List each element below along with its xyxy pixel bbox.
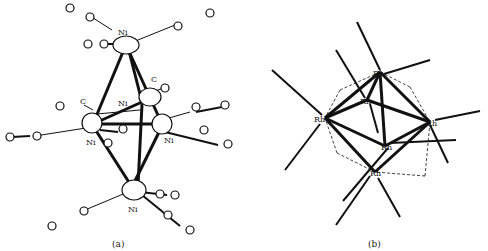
caption-a: (a) xyxy=(112,239,124,249)
ni-left-label: Ni xyxy=(86,138,96,147)
rh-left-label: Rh xyxy=(314,115,325,124)
ni-center-label: Ni xyxy=(118,99,128,108)
rh-upper-label: Rh xyxy=(360,97,371,106)
rh-center-label: Rh xyxy=(381,143,392,152)
panel-b: Rh Rh Rh Rh Rh Rh (b) xyxy=(272,22,480,249)
caption-b: (b) xyxy=(368,239,381,249)
c-mid-label: C xyxy=(151,75,157,84)
panel-a: Ni Ni Ni Ni Ni C C (a) xyxy=(6,4,232,249)
ni-top-label: Ni xyxy=(118,28,128,37)
ni-bottom-label: Ni xyxy=(128,205,138,214)
rh-bottom-label: Rh xyxy=(370,169,381,178)
c-left-label: C xyxy=(80,97,86,106)
rh-right-label: Rh xyxy=(426,119,437,128)
molecular-structure-figure: Ni Ni Ni Ni Ni C C (a) xyxy=(0,0,488,251)
rh-top-label: Rh xyxy=(373,69,384,78)
ni-right-label: Ni xyxy=(164,136,174,145)
